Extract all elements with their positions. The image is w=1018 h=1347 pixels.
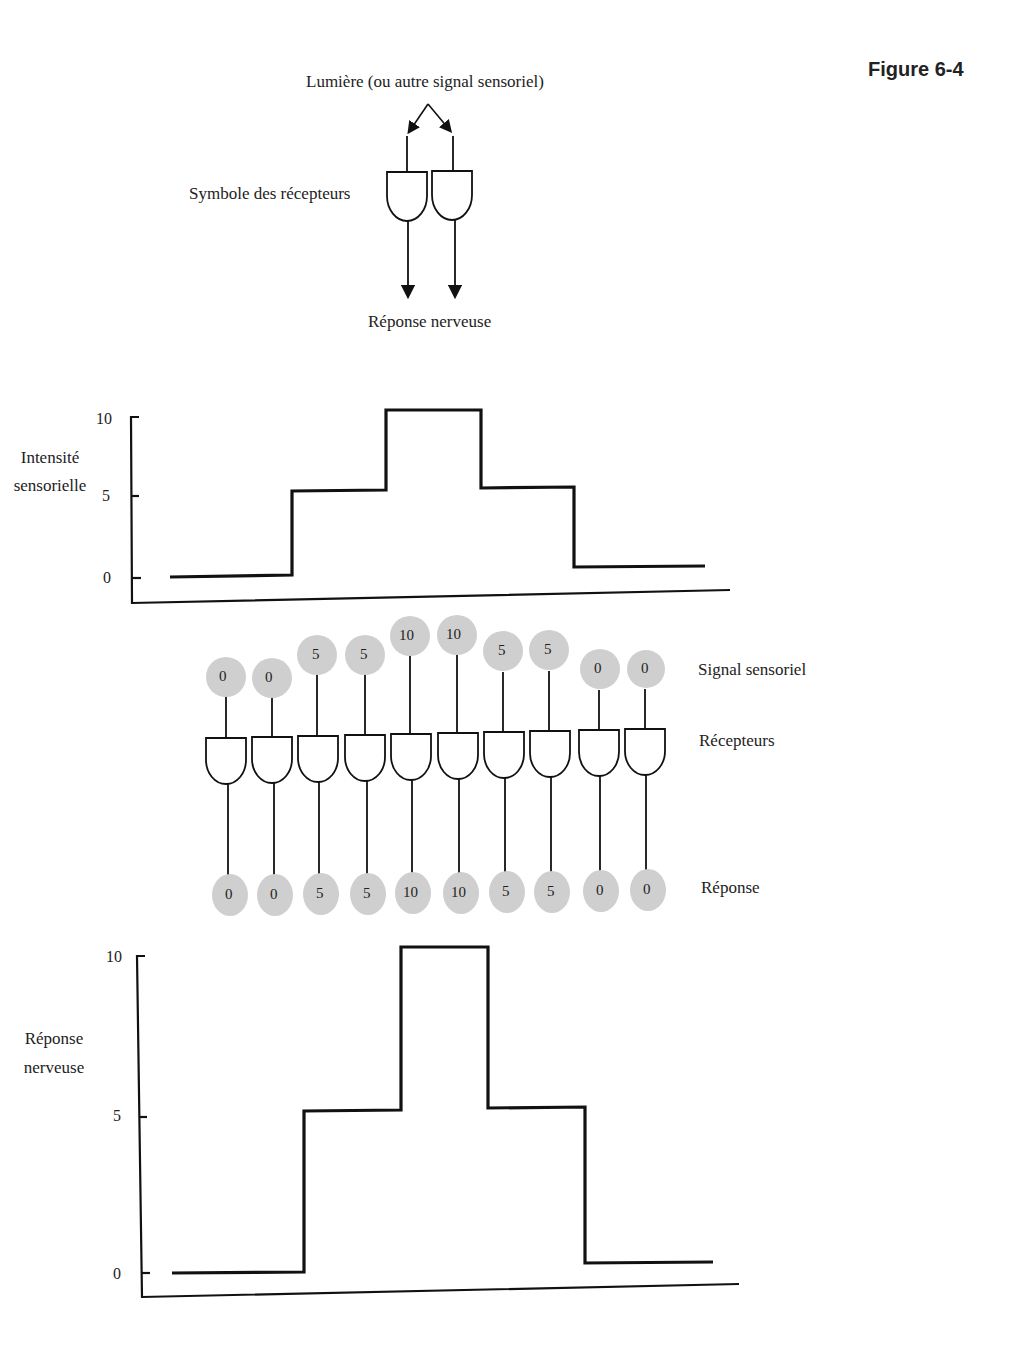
receptor-gate-icon (391, 734, 431, 780)
response-value: 5 (363, 885, 371, 902)
signal-value: 5 (498, 642, 506, 659)
receptor-gate-icon (530, 731, 570, 777)
receptor-symbol-graphic (0, 0, 1018, 340)
response-value: 5 (547, 883, 555, 900)
receptor-gate-icon (484, 732, 524, 778)
response-value: 0 (225, 886, 233, 903)
receptor-gate-icon (438, 733, 478, 779)
light-arrow-icon (411, 104, 448, 129)
signal-value: 5 (544, 641, 552, 658)
signal-value: 5 (312, 646, 320, 663)
signal-circles (206, 615, 665, 698)
receptor-gate-icon (387, 136, 427, 292)
receptor-gate-icon (298, 736, 338, 782)
response-value: 0 (596, 882, 604, 899)
signal-value: 10 (446, 626, 461, 643)
response-value: 5 (502, 883, 510, 900)
signal-value: 5 (360, 646, 368, 663)
signal-value: 0 (641, 660, 649, 677)
response-value: 0 (270, 886, 278, 903)
response-label: Réponse (701, 878, 760, 898)
signal-value: 0 (594, 660, 602, 677)
response-value: 10 (451, 884, 466, 901)
nerve-response-plot (0, 940, 760, 1310)
response-value: 0 (643, 881, 651, 898)
receptor-gate-icon (252, 737, 292, 783)
receptor-gates (206, 729, 665, 784)
response-value: 5 (316, 885, 324, 902)
response-value: 10 (403, 884, 418, 901)
receptor-gate-icon (625, 729, 665, 775)
receptor-gate-icon (432, 136, 472, 292)
signal-value: 0 (219, 668, 227, 685)
receptor-gate-icon (579, 730, 619, 776)
sensory-intensity-plot (0, 400, 760, 615)
receptor-gate-icon (206, 738, 246, 784)
receptors-label: Récepteurs (699, 731, 775, 751)
receptor-array-graphic (0, 600, 700, 930)
receptor-gate-icon (345, 735, 385, 781)
signal-label: Signal sensoriel (698, 660, 806, 680)
signal-value: 0 (265, 669, 273, 686)
signal-value: 10 (399, 627, 414, 644)
